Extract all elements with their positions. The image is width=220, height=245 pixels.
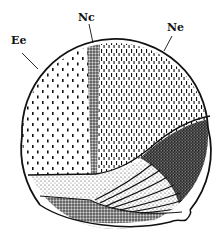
label-ee: Ee <box>11 35 26 46</box>
label-nc: Nc <box>78 12 95 23</box>
section-drawing <box>0 0 220 245</box>
section-diagram: Ee Nc Ne <box>0 0 220 245</box>
label-ne: Ne <box>167 22 184 33</box>
